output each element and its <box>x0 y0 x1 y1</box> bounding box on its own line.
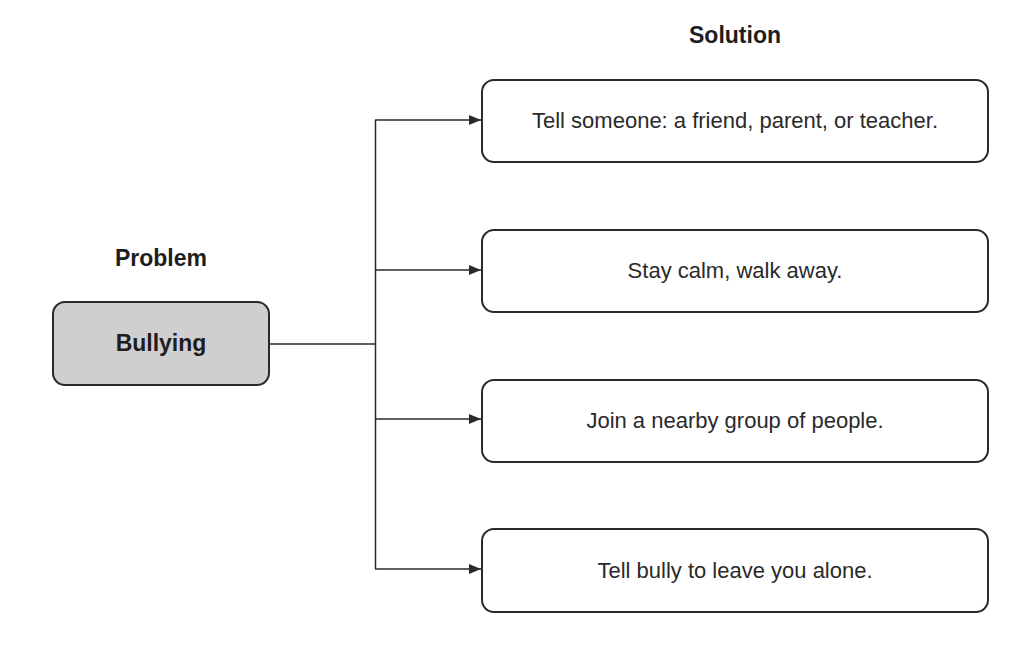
solution-box-1: Tell someone: a friend, parent, or teach… <box>481 79 989 163</box>
problem-box: Bullying <box>52 301 270 386</box>
solution-box-3: Join a nearby group of people. <box>481 379 989 463</box>
solution-label: Tell bully to leave you alone. <box>597 558 872 584</box>
solution-heading: Solution <box>481 22 989 49</box>
solution-box-4: Tell bully to leave you alone. <box>481 528 989 613</box>
problem-label: Bullying <box>116 330 207 357</box>
problem-heading: Problem <box>52 245 270 272</box>
solution-box-2: Stay calm, walk away. <box>481 229 989 313</box>
solution-label: Stay calm, walk away. <box>628 258 843 284</box>
solution-label: Tell someone: a friend, parent, or teach… <box>532 108 938 134</box>
solution-label: Join a nearby group of people. <box>586 408 883 434</box>
